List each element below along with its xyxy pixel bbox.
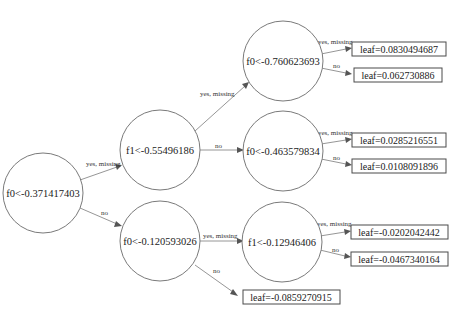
edge-label-n2-l7: no [213, 267, 221, 275]
node-label: f1<-0.55496186 [126, 145, 194, 156]
arrow-head [114, 221, 122, 227]
edge-n4-l3 [321, 140, 346, 144]
edge-label-n3-l2: no [333, 62, 341, 70]
leaf-label: leaf=0.062730886 [361, 70, 434, 81]
leaf-label: leaf=-0.0202042442 [358, 227, 439, 238]
edge-label-n1-n3: yes, missing [200, 90, 235, 98]
edge-label-root-n2: no [101, 209, 109, 217]
edge-root-n2 [80, 208, 117, 224]
arrow-head [345, 70, 352, 76]
leaf-label: leaf=-0.0859270915 [250, 292, 331, 303]
node-n3: f0<-0.760623693 [243, 21, 323, 101]
node-label: f0<-0.371417403 [6, 188, 79, 199]
arrow-head [344, 229, 351, 235]
leaf-l3: leaf=0.0285216551 [352, 133, 446, 147]
leaf-l1: leaf=0.0830494687 [352, 42, 446, 56]
node-label: f0<-0.120593026 [123, 236, 196, 247]
arrow-head [344, 253, 351, 259]
leaf-label: leaf=0.0108091896 [360, 161, 438, 172]
node-label: f0<-0.463579834 [246, 146, 320, 157]
edge-label-n5-l6: no [332, 246, 340, 254]
edge-root-n1 [80, 167, 117, 180]
node-n2: f0<-0.120593026 [120, 201, 200, 281]
edge-label-n4-l4: no [333, 154, 341, 162]
arrow-head [230, 289, 238, 296]
arrow-head [345, 46, 352, 52]
node-n5: f1<-0.12946406 [242, 202, 322, 282]
node-n1: f1<-0.55496186 [120, 110, 200, 190]
leaf-l5: leaf=-0.0202042442 [351, 225, 448, 239]
edge-n3-l1 [321, 49, 346, 54]
node-n4: f0<-0.463579834 [243, 111, 323, 191]
node-root: f0<-0.371417403 [3, 153, 83, 233]
arrow-head [345, 137, 352, 143]
node-label: f0<-0.760623693 [246, 56, 319, 67]
node-label: f1<-0.12946406 [248, 237, 316, 248]
leaf-label: leaf=-0.0467340164 [358, 254, 439, 265]
edge-n5-l5 [320, 232, 345, 236]
leaf-label: leaf=0.0830494687 [360, 44, 438, 55]
decision-tree-diagram: yes, missing no yes, missing no yes, mis… [0, 0, 451, 320]
leaf-l2: leaf=0.062730886 [354, 68, 442, 82]
leaf-l7: leaf=-0.0859270915 [243, 290, 340, 304]
leaf-label: leaf=0.0285216551 [360, 135, 438, 146]
leaf-l4: leaf=0.0108091896 [352, 159, 446, 173]
edge-label-n5-l5: yes, missing [317, 220, 352, 228]
edge-label-n4-l3: yes, missing [318, 129, 353, 137]
edge-label-n3-l1: yes, missing [318, 38, 353, 46]
leaf-l6: leaf=-0.0467340164 [351, 252, 448, 266]
edge-label-n1-n4: no [215, 142, 223, 150]
edge-label-n2-n5: yes, missing [203, 232, 238, 240]
arrow-head [345, 161, 352, 167]
edge-label-root-n1: yes, missing [86, 160, 121, 168]
